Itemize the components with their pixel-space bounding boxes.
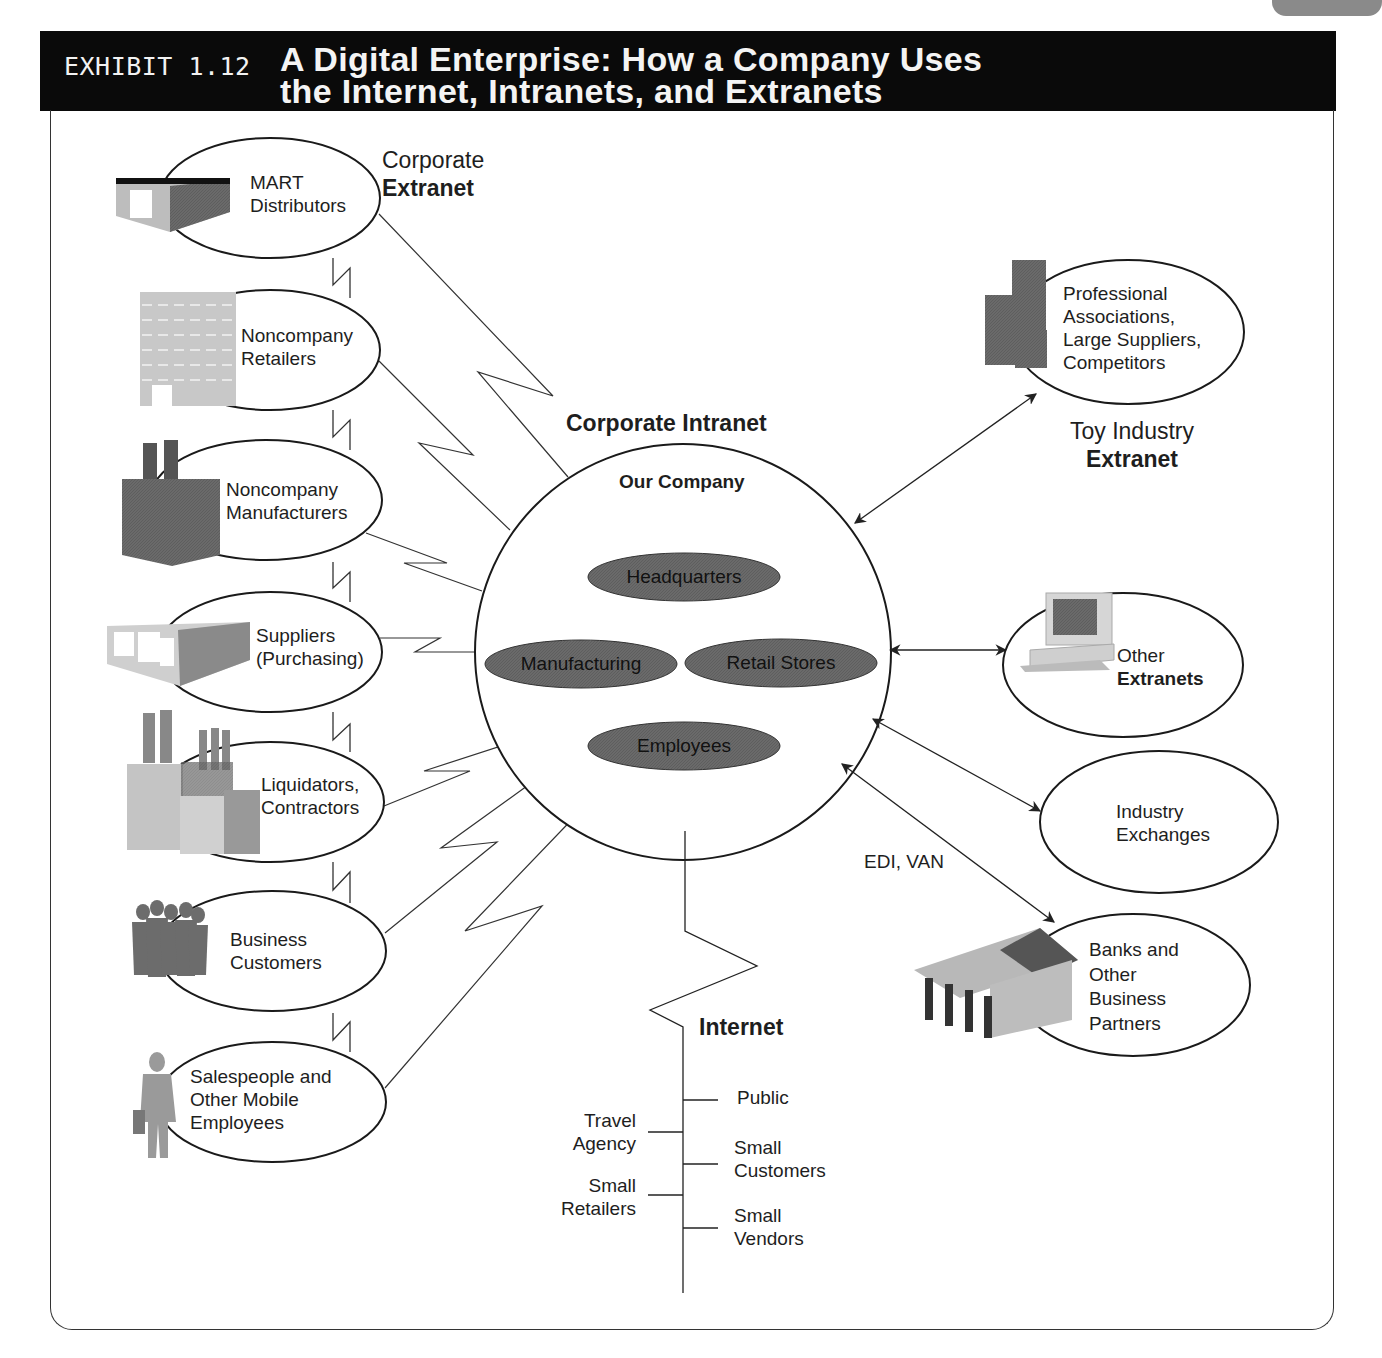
- our-company-label: Our Company: [619, 470, 745, 493]
- toy-industry-label-line2: Extranet: [1052, 445, 1212, 473]
- node-business-customers[interactable]: Business Customers: [230, 928, 322, 974]
- node-label-line: Other Mobile: [190, 1088, 332, 1111]
- internet-branch-small-vendors[interactable]: Small Vendors: [734, 1204, 804, 1250]
- node-label-line: Business: [1089, 987, 1179, 1012]
- branch-label-line: Travel: [536, 1109, 636, 1132]
- node-label-line: Salespeople and: [190, 1065, 332, 1088]
- node-label-line: Extranets: [1117, 667, 1204, 690]
- unit-retail-stores[interactable]: Retail Stores: [685, 652, 877, 674]
- node-label-line: Banks and: [1089, 938, 1179, 963]
- node-label-line: Customers: [230, 951, 322, 974]
- unit-manufacturing[interactable]: Manufacturing: [485, 653, 677, 675]
- node-label-line: Other: [1117, 644, 1204, 667]
- people-group-icon: [132, 900, 208, 977]
- node-salespeople[interactable]: Salespeople and Other Mobile Employees: [190, 1065, 332, 1134]
- node-label-line: Industry: [1116, 800, 1210, 823]
- branch-label-line: Vendors: [734, 1227, 804, 1250]
- branch-label-line: Small: [734, 1136, 826, 1159]
- node-label-line: Distributors: [250, 194, 346, 217]
- unit-employees[interactable]: Employees: [588, 735, 780, 757]
- node-label-line: Exchanges: [1116, 823, 1210, 846]
- toy-industry-label-line1: Toy Industry: [1052, 417, 1212, 445]
- businessman-icon: [133, 1052, 176, 1158]
- node-label-line: Employees: [190, 1111, 332, 1134]
- node-industry-exchanges[interactable]: Industry Exchanges: [1116, 800, 1210, 846]
- internet-branch-small-customers[interactable]: Small Customers: [734, 1136, 826, 1182]
- node-label-line: Associations,: [1063, 305, 1201, 328]
- node-label-line: Partners: [1089, 1012, 1179, 1037]
- corporate-intranet-label: Corporate Intranet: [566, 409, 767, 437]
- branch-label-line: Public: [737, 1086, 789, 1109]
- edi-van-label: EDI, VAN: [864, 850, 944, 873]
- node-suppliers[interactable]: Suppliers (Purchasing): [256, 624, 364, 670]
- corporate-extranet-label: Corporate Extranet: [382, 146, 484, 202]
- node-label-line: Professional: [1063, 282, 1201, 305]
- corporate-extranet-label-line1: Corporate: [382, 146, 484, 174]
- node-other-extranets[interactable]: Other Extranets: [1117, 644, 1204, 690]
- bank-icon: [914, 928, 1078, 1038]
- branch-label-line: Small: [536, 1174, 636, 1197]
- branch-label-line: Agency: [536, 1132, 636, 1155]
- office-towers-icon: [985, 260, 1047, 368]
- node-label-line: Retailers: [241, 347, 353, 370]
- node-label-line: MART: [250, 171, 346, 194]
- node-label-line: Noncompany: [241, 324, 353, 347]
- internet-branch-public[interactable]: Public: [737, 1086, 789, 1109]
- corporate-extranet-label-line2: Extranet: [382, 174, 484, 202]
- branch-label-line: Small: [734, 1204, 804, 1227]
- node-label-line: Manufacturers: [226, 501, 347, 524]
- node-label-line: Large Suppliers,: [1063, 328, 1201, 351]
- internet-branch-travel-agency[interactable]: Travel Agency: [536, 1109, 636, 1155]
- toy-industry-extranet-label: Toy Industry Extranet: [1052, 417, 1212, 473]
- branch-label-line: Customers: [734, 1159, 826, 1182]
- node-label-line: Liquidators,: [261, 773, 359, 796]
- node-label-line: Other: [1089, 963, 1179, 988]
- internet-label: Internet: [699, 1013, 783, 1041]
- node-mart-distributors[interactable]: MART Distributors: [250, 171, 346, 217]
- retail-building-icon: [140, 292, 236, 407]
- node-label-line: (Purchasing): [256, 647, 364, 670]
- node-label-line: Noncompany: [226, 478, 347, 501]
- node-banks[interactable]: Banks and Other Business Partners: [1089, 938, 1179, 1036]
- node-liquidators-contractors[interactable]: Liquidators, Contractors: [261, 773, 359, 819]
- node-label-line: Suppliers: [256, 624, 364, 647]
- node-noncompany-retailers[interactable]: Noncompany Retailers: [241, 324, 353, 370]
- branch-label-line: Retailers: [536, 1197, 636, 1220]
- node-label-line: Competitors: [1063, 351, 1201, 374]
- node-noncompany-manufacturers[interactable]: Noncompany Manufacturers: [226, 478, 347, 524]
- node-label-line: Contractors: [261, 796, 359, 819]
- node-label-line: Business: [230, 928, 322, 951]
- internet-branch-small-retailers[interactable]: Small Retailers: [536, 1174, 636, 1220]
- unit-headquarters[interactable]: Headquarters: [588, 566, 780, 588]
- node-professional-associations[interactable]: Professional Associations, Large Supplie…: [1063, 282, 1201, 374]
